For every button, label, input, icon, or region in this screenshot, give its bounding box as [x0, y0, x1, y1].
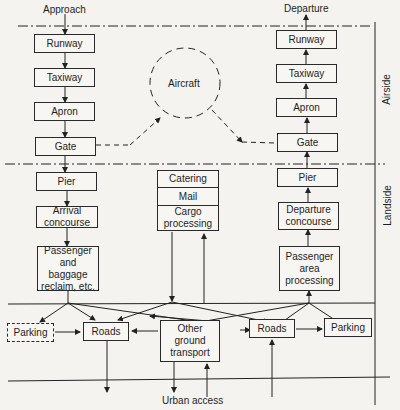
departure-pier-box: Pier [277, 168, 338, 187]
departure-runway-box: Runway [276, 30, 337, 49]
other-ground-transport-box: Other ground transport [160, 320, 220, 362]
urban-access-label: Urban access [162, 395, 223, 407]
airside-label: Airside [381, 70, 392, 110]
approach-label: Approach [43, 4, 86, 16]
departure-label: Departure [284, 3, 328, 15]
departure-concourse-box: Departure concourse [278, 202, 339, 230]
arrival-taxiway-box: Taxiway [34, 68, 95, 87]
landside-label: Landside [382, 181, 393, 231]
cargo-processing-cell: Cargo processing [158, 206, 218, 230]
mail-cell: Mail [158, 188, 218, 206]
passenger-processing-box: Passenger area processing [279, 246, 340, 291]
departure-apron-box: Apron [276, 98, 337, 117]
parking-left-box: Parking [7, 323, 54, 342]
arrival-apron-box: Apron [34, 102, 95, 121]
baggage-reclaim-box: Passenger and baggage reclaim, etc. [37, 246, 99, 291]
roads-right-box: Roads [249, 319, 295, 338]
arrival-concourse-box: Arrival concourse [36, 206, 98, 228]
departure-taxiway-box: Taxiway [276, 64, 337, 83]
parking-right-box: Parking [324, 318, 372, 337]
arrival-runway-box: Runway [34, 34, 95, 53]
aircraft-label: Aircraft [168, 78, 200, 89]
catering-cell: Catering [158, 171, 218, 188]
arrival-pier-box: Pier [36, 172, 97, 191]
cargo-stack: Catering Mail Cargo processing [157, 170, 219, 231]
departure-gate-box: Gate [277, 133, 338, 152]
roads-left-box: Roads [83, 322, 129, 341]
arrival-gate-box: Gate [35, 137, 96, 156]
